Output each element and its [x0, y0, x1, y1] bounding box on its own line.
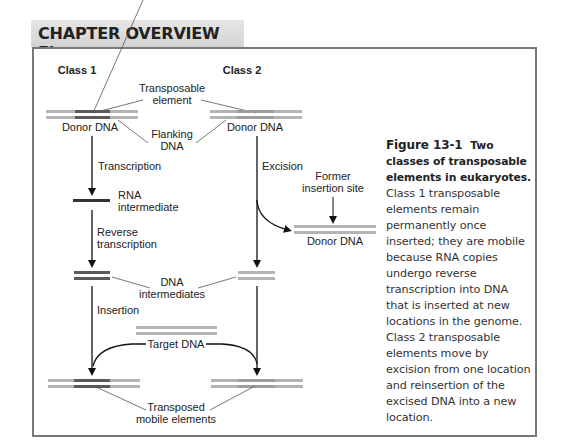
target-arrow-left	[93, 344, 146, 366]
pointer-line	[196, 120, 226, 143]
transposable-element-label-1: Transposable	[139, 82, 205, 94]
pointer-line	[112, 277, 150, 288]
pointer-line	[93, 0, 143, 113]
transposed-element-left	[48, 379, 140, 388]
insertion-site-label: insertion site	[302, 182, 364, 194]
transposed-label-1: Transposed	[147, 401, 205, 413]
rna-intermediate-bar	[73, 199, 110, 202]
target-arrow-right	[206, 344, 257, 364]
figure-number: Figure 13-1	[386, 138, 463, 152]
caption-title: Figure 13-1 Two classes of transposable …	[386, 139, 531, 184]
donor-dna-excised	[294, 225, 376, 234]
donor-dna-left	[46, 110, 138, 119]
caption-body: Class 1 transposable elements remain per…	[386, 187, 531, 424]
flanking-dna-label-1: Flanking	[151, 128, 193, 140]
dna-intermediates-label-2: intermediates	[139, 288, 206, 300]
transcription2-label: transcription	[97, 238, 157, 250]
rna-label: RNA	[118, 189, 142, 201]
dna-intermediate-left	[74, 271, 110, 280]
pointer-line	[94, 386, 146, 410]
figure-caption: Figure 13-1 Two classes of transposable …	[386, 137, 532, 426]
intermediate-label: intermediate	[118, 201, 179, 213]
dna-intermediates-label-1: DNA	[160, 276, 184, 288]
target-dna-label: Target DNA	[148, 338, 206, 350]
insertion-label: Insertion	[97, 304, 139, 316]
transposable-element-label-2: element	[152, 94, 191, 106]
dna-intermediate-right	[238, 271, 275, 280]
transposed-label-2: mobile elements	[136, 413, 217, 425]
transcription-label: Transcription	[98, 160, 161, 172]
class2-label: Class 2	[223, 64, 262, 76]
transposed-element-right	[211, 379, 303, 388]
donor-dna-excised-label: Donor DNA	[307, 235, 364, 247]
target-dna	[136, 326, 217, 335]
former-label: Former	[315, 170, 351, 182]
pointer-line	[118, 120, 148, 143]
donor-dna-left-label: Donor DNA	[62, 121, 119, 133]
excised-arrow	[257, 200, 288, 230]
donor-dna-right	[210, 110, 302, 119]
donor-dna-right-label: Donor DNA	[227, 121, 284, 133]
pointer-line	[210, 386, 255, 410]
reverse-label: Reverse	[97, 226, 138, 238]
flanking-dna-label-2: DNA	[160, 140, 184, 152]
excision-label: Excision	[262, 160, 303, 172]
class1-label: Class 1	[58, 64, 97, 76]
pointer-line	[198, 277, 236, 288]
